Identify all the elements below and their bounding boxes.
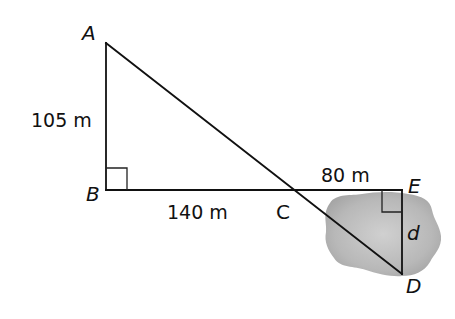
point-label-D: D <box>406 274 421 298</box>
similar-triangles-diagram: A B C E D 105 m 140 m 80 m d <box>0 0 455 319</box>
measure-AB: 105 m <box>31 109 92 131</box>
point-label-B: B <box>86 182 100 206</box>
measure-BC: 140 m <box>167 201 228 223</box>
right-angle-marker-B <box>106 168 127 190</box>
segment-AD <box>106 43 402 274</box>
pond-shape <box>325 192 441 276</box>
measure-ED: d <box>407 221 420 245</box>
point-label-A: A <box>80 21 96 45</box>
point-label-E: E <box>408 174 421 198</box>
point-label-C: C <box>276 200 290 224</box>
measure-CE: 80 m <box>321 164 370 186</box>
